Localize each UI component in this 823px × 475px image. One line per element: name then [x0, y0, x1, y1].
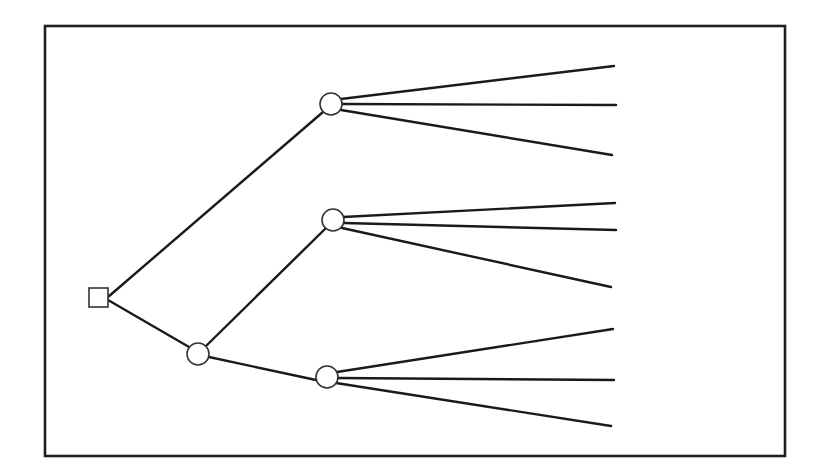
decision-tree-diagram [0, 0, 823, 475]
chance-node-c1 [187, 343, 209, 365]
outcome-branch-c4 [336, 383, 611, 426]
outcome-branch-c2 [342, 104, 616, 105]
outcome-branch-c4 [338, 378, 614, 380]
edge-c1-c3 [206, 228, 326, 346]
tree-edges [108, 112, 326, 380]
outcome-branches [336, 66, 616, 426]
decision-node-square [89, 288, 108, 307]
tree-nodes [89, 93, 344, 388]
chance-node-c2 [320, 93, 342, 115]
edge-root-c2 [108, 112, 323, 297]
outcome-branch-c2 [341, 110, 612, 155]
outcome-branch-c4 [337, 329, 613, 372]
outcome-branch-c3 [344, 223, 616, 230]
outcome-branch-c3 [343, 203, 615, 217]
outcome-branch-c3 [342, 228, 611, 287]
edge-root-c1 [108, 300, 189, 347]
outcome-branch-c2 [341, 66, 614, 99]
edge-c1-c4 [209, 357, 316, 380]
chance-node-c3 [322, 209, 344, 231]
chance-node-c4 [316, 366, 338, 388]
